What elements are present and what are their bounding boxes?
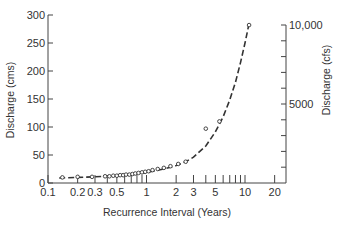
- x-tick-label: 0.5: [109, 186, 124, 198]
- data-point: [247, 23, 251, 27]
- y-tick-label: 250: [27, 37, 45, 49]
- data-point: [151, 168, 155, 172]
- data-point: [76, 175, 80, 179]
- y-tick-label: 150: [27, 93, 45, 105]
- data-point: [137, 171, 141, 175]
- fitted-curve: [59, 23, 249, 178]
- x-tick-label: 5: [212, 186, 218, 198]
- x-tick-label: 10: [239, 186, 251, 198]
- data-point: [184, 160, 188, 164]
- x-tick-label: 0.3: [87, 186, 102, 198]
- y-tick-label: 200: [27, 65, 45, 77]
- flood-frequency-chart: 0501001502002503000.10.20.30.51235102050…: [0, 0, 339, 228]
- x-tick-label: 0.1: [40, 186, 55, 198]
- data-point: [204, 127, 208, 131]
- y-axis-label-left: Discharge (cms): [4, 62, 16, 138]
- y-tick-label: 300: [27, 9, 45, 21]
- y-right-tick-label: 5000: [289, 98, 313, 110]
- data-point: [90, 175, 94, 179]
- y-tick-label: 100: [27, 121, 45, 133]
- data-point: [176, 162, 180, 166]
- data-points: [61, 23, 251, 179]
- x-tick-label: 3: [190, 186, 196, 198]
- data-point: [156, 167, 160, 171]
- data-point: [103, 174, 107, 178]
- data-point: [61, 176, 65, 180]
- data-point: [147, 169, 151, 173]
- x-tick-label: 20: [269, 186, 281, 198]
- y-right-tick-label: 10,000: [289, 19, 323, 31]
- y-tick-label: 50: [33, 149, 45, 161]
- data-point: [169, 164, 173, 168]
- axes: 0501001502002503000.10.20.30.51235102050…: [27, 9, 323, 198]
- data-point: [108, 174, 112, 178]
- dashed-fit-line: [59, 23, 249, 178]
- data-point: [111, 174, 115, 178]
- x-tick-label: 1: [143, 186, 149, 198]
- data-point: [218, 120, 222, 124]
- x-tick-label: 2: [173, 186, 179, 198]
- x-tick-label: 0.2: [70, 186, 85, 198]
- data-point: [162, 166, 166, 170]
- x-axis-label: Recurrence Interval (Years): [103, 206, 231, 218]
- y-axis-label-right: Discharge (cfs): [320, 45, 332, 116]
